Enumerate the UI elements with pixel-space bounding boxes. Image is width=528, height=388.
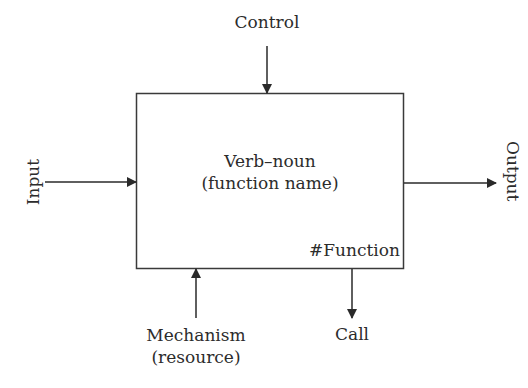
function-id-label: #Function (300, 240, 400, 260)
mechanism-label-line2: (resource) (136, 346, 256, 368)
idef0-diagram (0, 0, 528, 388)
input-label: Input (23, 152, 43, 212)
mechanism-label-line1: Mechanism (136, 324, 256, 346)
output-label: Output (503, 141, 523, 201)
control-label: Control (222, 12, 312, 32)
mechanism-label: Mechanism (resource) (136, 324, 256, 368)
call-label: Call (322, 324, 382, 344)
function-name: Verb–noun (function name) (180, 150, 360, 194)
function-name-line1: Verb–noun (180, 150, 360, 172)
function-name-line2: (function name) (180, 172, 360, 194)
